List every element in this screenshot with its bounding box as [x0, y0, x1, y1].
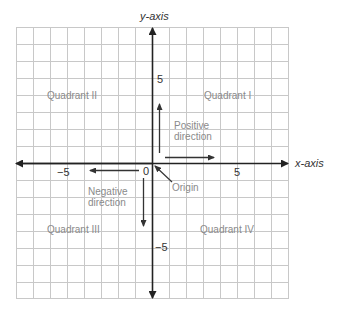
negative-direction-line1: Negative [88, 186, 127, 197]
tick-y-negative-5: −5 [155, 242, 168, 253]
quadrant-ii-label: Quadrant II [47, 91, 97, 101]
tick-origin-0: 0 [143, 166, 149, 177]
negative-direction-label: Negative direction [88, 186, 127, 208]
negative-direction-line2: direction [88, 197, 127, 208]
x-axis-label: x-axis [295, 158, 324, 169]
positive-direction-label: Positive direction [174, 120, 212, 142]
quadrant-i-label: Quadrant I [204, 91, 251, 101]
quadrant-iii-label: Quadrant III [47, 225, 100, 235]
quadrant-iv-label: Quadrant IV [200, 225, 254, 235]
coordinate-plane [0, 0, 345, 313]
y-axis-label: y-axis [140, 11, 169, 22]
positive-direction-line1: Positive [174, 120, 212, 131]
origin-label: Origin [172, 182, 199, 193]
tick-y-positive-5: 5 [157, 74, 163, 85]
tick-x-negative-5: −5 [57, 167, 70, 178]
tick-x-positive-5: 5 [234, 167, 240, 178]
positive-direction-line2: direction [174, 131, 212, 142]
